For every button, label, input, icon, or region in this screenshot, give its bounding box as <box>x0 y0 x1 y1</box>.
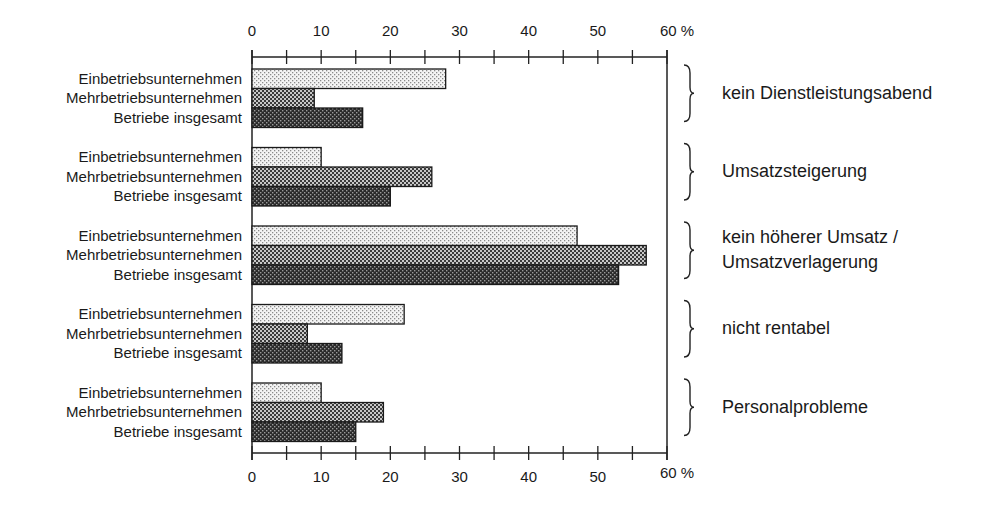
bar-mehrbetrieb <box>252 167 432 187</box>
category-label: Einbetriebsunternehmen <box>79 147 242 167</box>
bar-einbetrieb <box>252 305 404 325</box>
top-tick-label: 20 <box>382 22 399 39</box>
bottom-tick-label: 0 <box>248 468 256 485</box>
category-label: Einbetriebsunternehmen <box>79 69 242 89</box>
bottom-tick-label: 10 <box>313 468 330 485</box>
top-tick-label: 60 % <box>660 22 694 39</box>
brace-icon <box>684 144 694 201</box>
category-label: Betriebe insgesamt <box>114 186 242 206</box>
bar-insgesamt <box>252 422 356 442</box>
bar-einbetrieb <box>252 148 321 168</box>
bottom-tick-label: 60 % <box>660 464 694 481</box>
category-label: Betriebe insgesamt <box>114 343 242 363</box>
group-label-line: Personalprobleme <box>722 395 868 420</box>
bar-insgesamt <box>252 344 342 364</box>
category-label: Einbetriebsunternehmen <box>79 383 242 403</box>
category-label: Betriebe insgesamt <box>114 108 242 128</box>
group-label: Personalprobleme <box>722 395 868 420</box>
category-label: Einbetriebsunternehmen <box>79 304 242 324</box>
bar-insgesamt <box>252 265 619 285</box>
bar-insgesamt <box>252 187 390 207</box>
brace-icon <box>684 301 694 358</box>
category-label: Betriebe insgesamt <box>114 422 242 442</box>
group-label-line: kein höherer Umsatz / <box>722 225 898 250</box>
group-label: kein höherer Umsatz /Umsatzverlagerung <box>722 225 898 275</box>
top-tick-label: 40 <box>520 22 537 39</box>
group-label-line: Umsatzverlagerung <box>722 250 898 275</box>
category-label: Einbetriebsunternehmen <box>79 226 242 246</box>
bar-insgesamt <box>252 108 363 128</box>
bar-einbetrieb <box>252 69 446 89</box>
top-tick-label: 30 <box>451 22 468 39</box>
category-label: Mehrbetriebsunternehmen <box>66 402 242 422</box>
bar-einbetrieb <box>252 226 577 246</box>
bar-mehrbetrieb <box>252 89 314 109</box>
top-tick-label: 50 <box>589 22 606 39</box>
category-label: Betriebe insgesamt <box>114 265 242 285</box>
group-label: Umsatzsteigerung <box>722 159 867 184</box>
bar-mehrbetrieb <box>252 403 383 423</box>
brace-icon <box>684 379 694 436</box>
group-label: nicht rentabel <box>722 316 830 341</box>
category-label: Mehrbetriebsunternehmen <box>66 167 242 187</box>
bottom-tick-label: 30 <box>451 468 468 485</box>
bottom-tick-label: 20 <box>382 468 399 485</box>
brace-icon <box>684 222 694 279</box>
horizontal-bar-chart: 001010202030304040505060 %60 %Einbetrieb… <box>0 0 999 511</box>
bar-mehrbetrieb <box>252 324 307 344</box>
bars <box>252 69 646 442</box>
category-label: Mehrbetriebsunternehmen <box>66 88 242 108</box>
brace-icon <box>684 65 694 122</box>
group-label-line: nicht rentabel <box>722 316 830 341</box>
group-label-line: kein Dienstleistungsabend <box>722 81 932 106</box>
group-label-line: Umsatzsteigerung <box>722 159 867 184</box>
category-label: Mehrbetriebsunternehmen <box>66 245 242 265</box>
category-label: Mehrbetriebsunternehmen <box>66 324 242 344</box>
group-label: kein Dienstleistungsabend <box>722 81 932 106</box>
bottom-tick-label: 50 <box>589 468 606 485</box>
bar-mehrbetrieb <box>252 246 646 266</box>
top-tick-label: 10 <box>313 22 330 39</box>
top-tick-label: 0 <box>248 22 256 39</box>
bottom-tick-label: 40 <box>520 468 537 485</box>
group-braces <box>684 65 694 436</box>
bar-einbetrieb <box>252 383 321 403</box>
